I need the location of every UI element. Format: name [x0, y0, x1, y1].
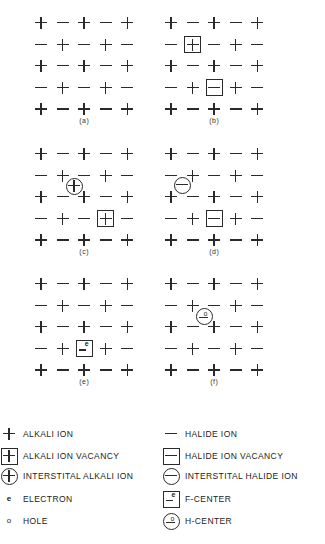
- alkali-ion-icon: [229, 38, 243, 52]
- alkali-ion-icon: [120, 102, 134, 116]
- interstitial-halide-ion-icon: [174, 177, 191, 194]
- halide-ion-icon: [164, 342, 178, 356]
- halide-ion-icon: [164, 299, 178, 313]
- halide-ion-icon: [56, 233, 70, 247]
- alkali-ion-icon: [34, 102, 48, 116]
- legend-item-alkali-ion-vacancy: ALKALI ION VACANCY: [1, 448, 119, 464]
- alkali-ion-icon: [77, 59, 91, 73]
- halide-ion-icon: [77, 38, 91, 52]
- alkali-ion-icon: [99, 169, 113, 183]
- halide-ion-icon: [186, 363, 200, 377]
- halide-ion-icon: [120, 299, 134, 313]
- boxed-plus-icon: [1, 448, 18, 465]
- halide-ion-icon: [186, 102, 200, 116]
- halide-ion-icon: [56, 320, 70, 334]
- halide-ion-icon: [186, 59, 200, 73]
- alkali-ion-icon: [34, 147, 48, 161]
- halide-ion-icon: [99, 147, 113, 161]
- halide-ion-icon: [229, 277, 243, 291]
- halide-ion-icon: [99, 190, 113, 204]
- alkali-ion-icon: [56, 38, 70, 52]
- alkali-ion-icon: [99, 342, 113, 356]
- panel-label-c: (c): [79, 248, 89, 255]
- alkali-ion-icon: [77, 233, 91, 247]
- halide-ion-icon: [186, 147, 200, 161]
- legend-item-electron: e ELECTRON: [1, 491, 73, 507]
- halide-ion-icon: [229, 102, 243, 116]
- halide-ion-icon: [250, 38, 264, 52]
- alkali-ion-icon: [229, 212, 243, 226]
- alkali-ion-icon: [164, 59, 178, 73]
- alkali-ion-icon: [207, 363, 221, 377]
- panel-label-e: (e): [79, 378, 89, 385]
- halide-ion-icon: [99, 59, 113, 73]
- alkali-ion-icon: [34, 59, 48, 73]
- alkali-ion-icon: [186, 212, 200, 226]
- alkali-ion-icon: [164, 233, 178, 247]
- alkali-ion-icon: [77, 102, 91, 116]
- panel-label-a: (a): [79, 117, 89, 124]
- legend-label: HOLE: [23, 516, 48, 526]
- halide-ion-icon: [99, 363, 113, 377]
- halide-ion-icon: [250, 212, 264, 226]
- legend-label: INTERSTITAL HALIDE ION: [185, 471, 298, 481]
- alkali-ion-icon: [56, 212, 70, 226]
- halide-ion-icon: [34, 342, 48, 356]
- halide-ion-icon: [77, 81, 91, 95]
- alkali-ion-icon: [77, 277, 91, 291]
- legend-label: F-CENTER: [185, 494, 231, 504]
- legend-label: H-CENTER: [185, 516, 232, 526]
- halide-ion-icon: [229, 233, 243, 247]
- h-center-icon: o: [163, 513, 180, 530]
- halide-ion-icon: [229, 16, 243, 30]
- alkali-ion-icon: [164, 190, 178, 204]
- electron-icon: e: [1, 491, 17, 507]
- alkali-ion-icon: [186, 342, 200, 356]
- alkali-ion-icon: [120, 147, 134, 161]
- halide-ion-icon: [56, 363, 70, 377]
- halide-ion-icon: [56, 102, 70, 116]
- alkali-ion-icon: [164, 277, 178, 291]
- halide-ion-icon: [250, 169, 264, 183]
- legend-item-hole: o HOLE: [1, 513, 48, 529]
- halide-ion-icon: [56, 16, 70, 30]
- halide-ion-icon: [120, 38, 134, 52]
- legend-label: ALKALI ION VACANCY: [23, 451, 119, 461]
- alkali-ion-icon: [250, 233, 264, 247]
- alkali-ion-vacancy-icon: [184, 36, 201, 53]
- legend-label: ALKALI ION: [23, 429, 73, 439]
- alkali-ion-icon: [207, 147, 221, 161]
- halide-ion-icon: [229, 363, 243, 377]
- halide-ion-icon: [34, 299, 48, 313]
- alkali-ion-icon: [207, 16, 221, 30]
- alkali-ion-icon: [250, 277, 264, 291]
- circled-plus-icon: [1, 468, 18, 485]
- halide-ion-icon: [186, 16, 200, 30]
- halide-ion-icon: [229, 147, 243, 161]
- alkali-ion-icon: [56, 342, 70, 356]
- halide-ion-icon: [207, 38, 221, 52]
- legend-label: HALIDE ION VACANCY: [185, 451, 283, 461]
- alkali-ion-icon: [250, 147, 264, 161]
- ion-glyph: [207, 212, 221, 226]
- alkali-ion-icon: [186, 81, 200, 95]
- legend-item-alkali-ion: ALKALI ION: [1, 426, 73, 442]
- halide-ion-icon: [250, 342, 264, 356]
- alkali-ion-icon: [120, 363, 134, 377]
- alkali-ion-icon: [120, 16, 134, 30]
- alkali-ion-icon: [120, 59, 134, 73]
- alkali-ion-icon: [164, 16, 178, 30]
- alkali-ion-icon: [164, 363, 178, 377]
- circled-minus-icon: [163, 468, 180, 485]
- halide-ion-icon: [229, 320, 243, 334]
- panel-label-b: (b): [209, 117, 219, 124]
- alkali-ion-icon: [34, 16, 48, 30]
- halide-ion-icon: [186, 233, 200, 247]
- alkali-ion-icon: [164, 102, 178, 116]
- alkali-ion-icon: [77, 16, 91, 30]
- halide-ion-icon: [120, 342, 134, 356]
- alkali-ion-icon: [99, 38, 113, 52]
- halide-ion-icon: [34, 81, 48, 95]
- halide-ion-icon: [229, 190, 243, 204]
- alkali-ion-icon: [229, 342, 243, 356]
